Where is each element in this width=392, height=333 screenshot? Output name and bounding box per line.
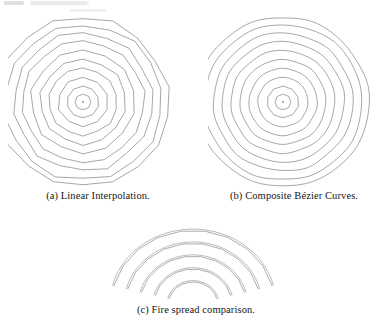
bezier-arc-2 <box>154 268 232 295</box>
subfigure-a-linear-interpolation <box>8 14 184 190</box>
linear-arc-1 <box>169 282 216 298</box>
isochrone-ring-9 <box>8 26 161 178</box>
ignition-point-dot <box>282 101 284 103</box>
subfigure-c-fire-spread-comparison <box>98 212 294 304</box>
page-bleed-artifact <box>4 1 90 5</box>
linear-arc-5 <box>114 231 272 286</box>
caption-subfigure-b: (b) Composite Bézier Curves. <box>196 189 392 202</box>
composite-bezier-plot <box>208 14 384 190</box>
fire-spread-comparison-plot <box>98 212 294 304</box>
page-bleed-artifact-secondary <box>70 9 106 12</box>
linear-interpolation-plot <box>8 14 184 190</box>
bezier-arc-1 <box>168 281 218 299</box>
bezier-arc-5 <box>113 229 274 285</box>
bezier-arc-3 <box>140 255 246 292</box>
caption-subfigure-c: (c) Fire spread comparison. <box>0 303 392 316</box>
subfigure-b-composite-bezier-curves <box>208 14 384 190</box>
caption-subfigure-a: (a) Linear Interpolation. <box>0 189 196 202</box>
linear-arc-3 <box>142 257 245 292</box>
figure-page: (a) Linear Interpolation. (b) Composite … <box>0 0 392 333</box>
ignition-point-dot <box>82 101 84 103</box>
